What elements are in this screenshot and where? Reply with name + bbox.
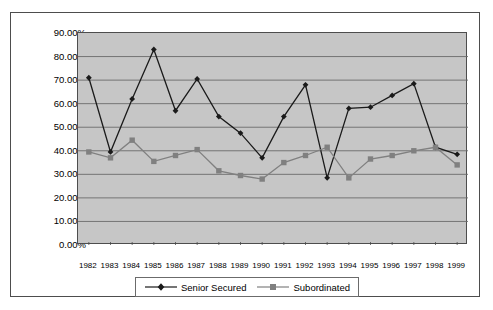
x-axis-tick-label: 1989 <box>231 261 249 270</box>
data-point-square <box>238 173 243 178</box>
series-line <box>89 140 457 179</box>
x-axis-tick-label: 1993 <box>317 261 335 270</box>
diamond-marker-icon <box>144 281 178 293</box>
x-axis-tick-label: 1994 <box>339 261 357 270</box>
data-point-square <box>281 160 286 165</box>
data-point-square <box>151 159 156 164</box>
x-axis-tick-label: 1988 <box>209 261 227 270</box>
data-point-square <box>194 147 199 152</box>
series-lines <box>78 33 468 245</box>
x-axis-tick-label: 1982 <box>79 261 97 270</box>
legend-label-subordinated: Subordinated <box>293 282 350 293</box>
chart-canvas: 0.00%10.00%20.00%30.00%40.00%50.00%60.00… <box>11 13 481 298</box>
legend-label-senior-secured: Senior Secured <box>181 282 246 293</box>
data-point-square <box>411 148 416 153</box>
data-point-square <box>173 153 178 158</box>
series-subordinated <box>86 137 460 181</box>
x-axis-tick-label: 1998 <box>426 261 444 270</box>
square-marker-icon <box>256 281 290 293</box>
data-point-square <box>368 156 373 161</box>
legend-item-senior-secured: Senior Secured <box>144 281 246 293</box>
data-point-square <box>216 168 221 173</box>
data-point-diamond <box>368 104 374 110</box>
x-axis-tick-label: 1991 <box>274 261 292 270</box>
x-axis-tick-label: 1995 <box>361 261 379 270</box>
chart-frame: 0.00%10.00%20.00%30.00%40.00%50.00%60.00… <box>10 12 480 297</box>
data-point-diamond <box>454 151 460 157</box>
chart-legend: Senior Secured Subordinated <box>135 277 359 297</box>
x-axis-tick-label: 1986 <box>166 261 184 270</box>
x-axis-tick-label: 1999 <box>447 261 465 270</box>
data-point-square <box>303 153 308 158</box>
data-point-square <box>389 153 394 158</box>
data-point-square <box>454 162 459 167</box>
data-point-diamond <box>151 47 157 53</box>
data-point-square <box>346 175 351 180</box>
data-point-diamond <box>411 81 417 87</box>
data-point-square <box>433 145 438 150</box>
x-axis-tick-label: 1996 <box>382 261 400 270</box>
data-point-square <box>108 155 113 160</box>
x-axis-tick-label: 1984 <box>122 261 140 270</box>
data-point-square <box>86 149 91 154</box>
x-axis-tick-label: 1983 <box>101 261 119 270</box>
series-line <box>89 49 457 177</box>
data-point-diamond <box>108 149 114 155</box>
series-senior-secured <box>86 47 460 181</box>
data-point-diamond <box>129 96 135 102</box>
x-axis-tick-label: 1990 <box>252 261 270 270</box>
plot-area <box>77 32 467 244</box>
x-axis-tick-label: 1992 <box>296 261 314 270</box>
data-point-diamond <box>346 105 352 111</box>
legend-item-subordinated: Subordinated <box>256 281 350 293</box>
data-point-diamond <box>389 93 395 99</box>
data-point-square <box>259 176 264 181</box>
x-axis-tick-label: 1987 <box>187 261 205 270</box>
data-point-square <box>129 137 134 142</box>
data-point-square <box>324 145 329 150</box>
data-point-diamond <box>324 175 330 181</box>
x-axis-tick-label: 1985 <box>144 261 162 270</box>
x-axis-tick-label: 1997 <box>404 261 422 270</box>
